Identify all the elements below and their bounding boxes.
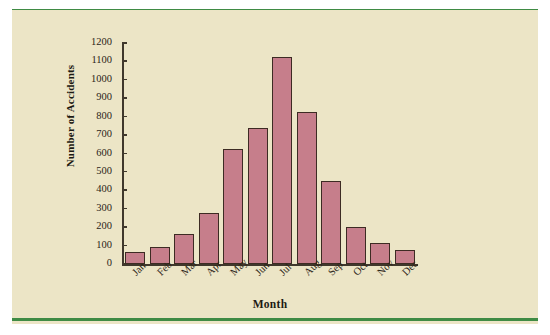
bar-series bbox=[123, 43, 417, 264]
y-axis-tick-label: 400 bbox=[96, 183, 112, 194]
y-axis-tick-label: 300 bbox=[96, 202, 112, 213]
y-axis-tick-label: 1200 bbox=[91, 36, 112, 47]
y-axis-tick-label: 100 bbox=[96, 239, 112, 250]
y-axis-tick-label: 200 bbox=[96, 220, 112, 231]
y-axis-tick-label: 500 bbox=[96, 165, 112, 176]
bar-apr bbox=[199, 213, 219, 264]
y-axis-tick-label: 0 bbox=[107, 257, 112, 268]
x-axis-tick-labels: JanFebMarAprMayJunJulAugSepOctNovDec bbox=[123, 266, 417, 300]
x-axis-title: Month bbox=[122, 298, 418, 310]
y-axis-tick-label: 1100 bbox=[91, 54, 112, 65]
bottom-green-rule bbox=[12, 318, 538, 321]
bar-aug bbox=[297, 112, 317, 264]
y-axis-tick-label: 700 bbox=[96, 128, 112, 139]
y-axis-tick-label: 800 bbox=[96, 110, 112, 121]
bar-jun bbox=[248, 128, 268, 264]
bar-oct bbox=[346, 227, 366, 264]
bar-sep bbox=[321, 181, 341, 264]
bar-may bbox=[223, 149, 243, 264]
y-axis-tick-label: 1000 bbox=[91, 73, 112, 84]
bar-jul bbox=[272, 57, 292, 264]
y-axis-tick-label: 600 bbox=[96, 147, 112, 158]
y-axis-tick-label: 900 bbox=[96, 91, 112, 102]
figure-page: 0100200300400500600700800900100011001200… bbox=[0, 0, 550, 335]
y-axis-title: Number of Accidents bbox=[64, 36, 76, 196]
chart-figure-panel: 0100200300400500600700800900100011001200… bbox=[12, 10, 538, 324]
